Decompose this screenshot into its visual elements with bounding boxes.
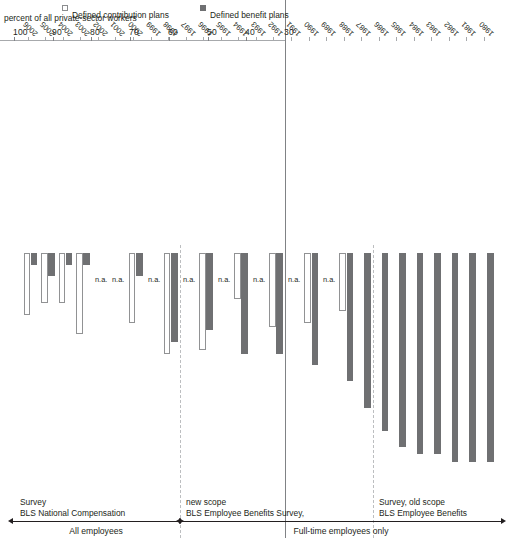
year-tick [273,37,274,41]
year-tick [326,37,327,41]
legend-label-dc: Defined contribution plans [72,10,169,20]
bar-defined-benefit [399,253,406,447]
year-label: 1984 [407,20,425,38]
legend-swatch-dc [62,5,68,11]
axis-baseline [285,0,286,538]
bar-defined-benefit [171,253,178,342]
na-label: n.a. [218,275,230,284]
all-employees-bracket-label: All employees [69,526,123,536]
year-tick [361,37,362,41]
year-tick [466,37,467,41]
source-label-ncs: BLS National Compensation [20,508,125,518]
year-label: 1986 [372,20,390,38]
axis-tick [91,37,92,41]
bar-defined-contribution [269,253,276,327]
bar-defined-benefit [241,253,248,354]
era-separator [373,245,374,538]
axis-tick [285,37,286,41]
year-tick [63,37,64,41]
year-tick [431,37,432,41]
bar-defined-contribution [76,253,83,334]
bar-defined-benefit [206,253,213,330]
year-tick [133,37,134,41]
year-label: 1983 [425,20,443,38]
bar-defined-benefit [364,253,371,408]
year-tick [203,37,204,41]
year-label: 1987 [355,20,373,38]
bar-defined-benefit [276,253,283,354]
bar-defined-contribution [339,253,346,311]
axis-tick [53,37,54,41]
bar-defined-benefit [434,253,441,454]
na-label: n.a. [183,275,195,284]
bar-defined-contribution [164,253,171,354]
axis-tick [130,37,131,41]
bar-defined-contribution [234,253,241,299]
na-label: n.a. [288,275,300,284]
all-employees-arrowhead [8,519,13,525]
bar-defined-contribution [199,253,206,350]
bar-defined-benefit [347,253,354,381]
year-label: 1988 [337,20,355,38]
bar-defined-benefit [48,253,55,276]
year-tick [256,37,257,41]
year-label: 1992 [267,20,285,38]
source-label-ebs-new: new scope [186,498,226,508]
source-label-ebs-new: BLS Employee Benefits Survey, [186,508,304,518]
full-time-arrowhead [501,519,506,525]
year-tick [396,37,397,41]
bar-defined-benefit [382,253,389,431]
year-label: 1997 [179,20,197,38]
legend-label-db: Defined benefit plans [210,10,289,20]
era-separator [180,245,181,538]
bar-defined-benefit [66,253,73,265]
bar-defined-benefit [31,253,38,265]
year-tick [98,37,99,41]
source-label-ebs-old: Survey, old scope [379,498,445,508]
na-label: n.a. [253,275,265,284]
bar-defined-contribution [59,253,66,303]
year-label: 1990 [302,20,320,38]
bar-defined-benefit [83,253,90,265]
legend-swatch-db [200,5,206,11]
bar-defined-contribution [129,253,136,323]
year-tick [80,37,81,41]
year-tick [186,37,187,41]
na-label: n.a. [148,275,160,284]
year-label: 1980 [477,20,495,38]
bar-defined-contribution [304,253,311,323]
bar-defined-benefit [487,253,494,462]
bar-defined-contribution [24,253,31,315]
year-tick [309,37,310,41]
year-tick [115,37,116,41]
year-label: 1981 [460,20,478,38]
source-label-ncs: Survey [20,498,46,508]
bar-defined-benefit [452,253,459,462]
na-label: n.a. [323,275,335,284]
na-label: n.a. [112,275,124,284]
year-tick [344,37,345,41]
year-tick [449,37,450,41]
na-label: n.a. [95,275,107,284]
axis-vertical-line [0,40,286,41]
full-time-arrowhead [176,519,181,525]
year-tick [238,37,239,41]
year-label: 1989 [319,20,337,38]
all-employees-bracket-line [12,521,180,522]
year-tick [484,37,485,41]
year-tick [151,37,152,41]
year-tick [414,37,415,41]
year-label: 1985 [390,20,408,38]
source-label-ebs-old: BLS Employee Benefits [379,508,467,518]
bar-defined-benefit [312,253,319,365]
year-tick [45,37,46,41]
axis-tick [14,37,15,41]
full-time-bracket-line [180,521,502,522]
year-tick [168,37,169,41]
bar-defined-benefit [136,253,143,276]
year-label: 1982 [442,20,460,38]
year-tick [379,37,380,41]
